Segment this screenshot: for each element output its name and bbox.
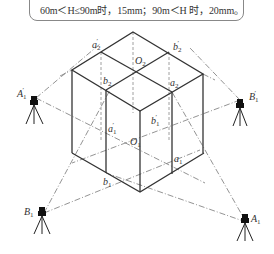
label-A1: A1 bbox=[250, 213, 261, 226]
label-a1: a1 bbox=[174, 153, 183, 166]
label-B1-prime: B1′ bbox=[249, 89, 259, 104]
label-b2-prime: b2′ bbox=[173, 39, 182, 54]
building-diagram: a2′ b2′ O2 b2 a2 a1′ b1′ O1 a1 b1 A1′ B1… bbox=[0, 0, 274, 254]
theodolite-B1-icon bbox=[34, 207, 50, 234]
label-b1: b1 bbox=[103, 176, 112, 189]
label-a2-prime: a2′ bbox=[92, 37, 101, 52]
label-a1-prime: a1′ bbox=[108, 121, 117, 136]
label-O2: O2 bbox=[135, 55, 146, 68]
label-b2: b2 bbox=[103, 75, 112, 88]
sight-lines bbox=[36, 44, 246, 222]
label-A1-prime: A1′ bbox=[16, 86, 27, 101]
point-labels: a2′ b2′ O2 b2 a2 a1′ b1′ O1 a1 b1 A1′ B1… bbox=[16, 37, 261, 226]
label-a2: a2 bbox=[170, 77, 179, 90]
label-B1: B1 bbox=[24, 206, 34, 219]
label-b1-prime: b1′ bbox=[151, 113, 160, 128]
theodolite-B1-prime-icon bbox=[233, 99, 247, 126]
